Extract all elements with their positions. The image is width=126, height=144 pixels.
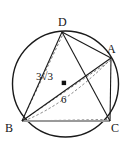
vertex-label-c: C: [111, 121, 119, 135]
vertex-label-d: D: [58, 15, 67, 29]
measure-text-6: 6: [61, 93, 67, 105]
vertex-label-a: A: [107, 42, 116, 56]
measure-label-3root3: 3√3: [36, 70, 54, 82]
diagonal-b-a: [22, 58, 111, 121]
vertex-label-b: B: [5, 121, 13, 135]
center-point-dot: [62, 81, 66, 85]
geometry-canvas: D A C B 3√3 6: [0, 0, 126, 144]
geometry-figure: D A C B 3√3 6: [0, 0, 126, 144]
measure-text-3root3: 3√3: [36, 70, 54, 82]
